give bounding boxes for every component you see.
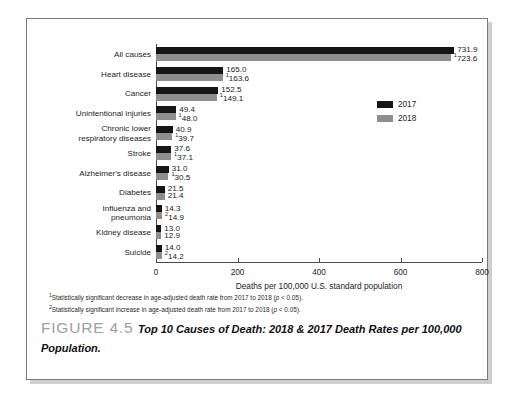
category-label: Alzheimer's disease xyxy=(31,169,151,178)
category-label: Influenza and pneumonia xyxy=(31,204,151,223)
category-label: All causes xyxy=(31,50,151,59)
bar-2018[interactable] xyxy=(156,193,165,200)
legend-item-2017[interactable]: 2017 xyxy=(377,99,416,110)
category-label: Suicide xyxy=(31,248,151,257)
bar-value-label: 214.9 xyxy=(165,211,184,222)
legend-swatch-2017-icon xyxy=(377,101,393,108)
bar-2018[interactable] xyxy=(156,54,451,61)
x-axis-line xyxy=(156,262,482,263)
bar-2017[interactable] xyxy=(156,245,162,252)
bar-value-label: 21.4 xyxy=(168,191,184,200)
legend-label-2018: 2018 xyxy=(398,114,416,123)
bar-value-label: 12.9 xyxy=(164,231,180,240)
x-axis-tick-label: 400 xyxy=(299,268,339,277)
bar-value-label: 148.0 xyxy=(179,112,198,123)
x-axis-title: Deaths per 100,000 U.S. standard populat… xyxy=(156,281,482,291)
category-label: Diabetes xyxy=(31,188,151,197)
bar-2017[interactable] xyxy=(156,87,218,94)
legend-swatch-2018-icon xyxy=(377,115,393,122)
x-axis-tick xyxy=(482,258,483,262)
bar-2018[interactable] xyxy=(156,232,161,239)
bar-chart: 0200400600800Deaths per 100,000 U.S. sta… xyxy=(27,19,489,289)
bar-2018[interactable] xyxy=(156,153,171,160)
bar-2018[interactable] xyxy=(156,94,217,101)
bar-2017[interactable] xyxy=(156,47,454,54)
x-axis-tick-label: 200 xyxy=(218,268,258,277)
footnote: 1Statistically significant decrease in a… xyxy=(49,291,469,303)
figure-caption: FIGURE 4.5 Top 10 Causes of Death: 2018 … xyxy=(41,319,481,357)
legend-item-2018[interactable]: 2018 xyxy=(377,113,416,124)
category-label: Chronic lower respiratory diseases xyxy=(31,124,151,143)
bar-2017[interactable] xyxy=(156,186,165,193)
bar-2018[interactable] xyxy=(156,252,162,259)
x-axis-tick xyxy=(238,258,239,262)
category-label: Cancer xyxy=(31,89,151,98)
category-label: Unintentional injuries xyxy=(31,109,151,118)
bar-2017[interactable] xyxy=(156,106,176,113)
bar-2018[interactable] xyxy=(156,74,223,81)
bar-value-label: 130.5 xyxy=(171,171,190,182)
x-axis-tick-label: 800 xyxy=(462,268,502,277)
category-label: Heart disease xyxy=(31,70,151,79)
bar-2017[interactable] xyxy=(156,205,162,212)
bar-value-label: 1149.1 xyxy=(220,92,243,103)
bar-2017[interactable] xyxy=(156,67,223,74)
x-axis-tick-label: 600 xyxy=(381,268,421,277)
footnotes: 1Statistically significant decrease in a… xyxy=(49,291,469,314)
bar-2018[interactable] xyxy=(156,133,172,140)
category-label: Kidney disease xyxy=(31,228,151,237)
category-label: Stroke xyxy=(31,149,151,158)
bar-value-label: 1163.6 xyxy=(226,72,249,83)
chart-legend: 2017 2018 xyxy=(377,99,416,127)
bar-2017[interactable] xyxy=(156,126,173,133)
x-axis-tick xyxy=(401,258,402,262)
x-axis-tick-label: 0 xyxy=(136,268,176,277)
figure-page: 0200400600800Deaths per 100,000 U.S. sta… xyxy=(0,0,515,401)
x-axis-tick xyxy=(319,258,320,262)
bar-value-label: 137.1 xyxy=(174,151,193,162)
bar-2017[interactable] xyxy=(156,146,171,153)
bar-value-label: 139.7 xyxy=(175,132,194,143)
figure-frame: 0200400600800Deaths per 100,000 U.S. sta… xyxy=(26,18,488,380)
bar-2018[interactable] xyxy=(156,212,162,219)
bar-2018[interactable] xyxy=(156,113,176,120)
bar-2017[interactable] xyxy=(156,225,161,232)
legend-label-2017: 2017 xyxy=(398,100,416,109)
bar-value-label: 214.2 xyxy=(165,250,184,261)
bar-value-label: 1723.6 xyxy=(454,52,477,63)
figure-number: FIGURE 4.5 xyxy=(41,319,133,336)
bar-2017[interactable] xyxy=(156,166,169,173)
footnote: 2Statistically significant increase in a… xyxy=(49,303,469,315)
bar-2018[interactable] xyxy=(156,173,168,180)
